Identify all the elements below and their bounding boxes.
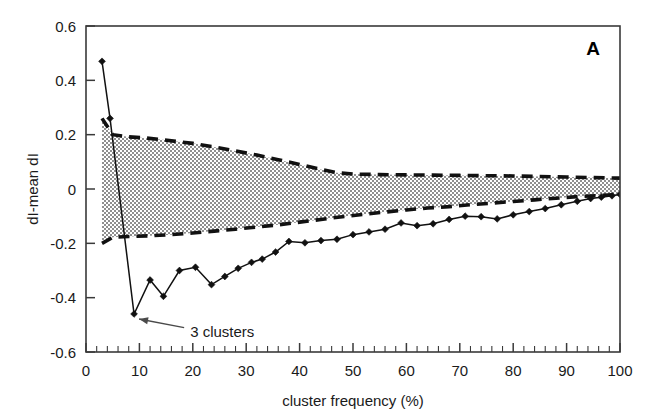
data-point-marker — [542, 205, 549, 212]
y-axis-tick-label: 0.2 — [55, 126, 76, 143]
y-axis-tick-label: 0.4 — [55, 72, 76, 89]
y-axis-title: dI-mean dI — [24, 153, 41, 225]
data-point-marker — [526, 208, 533, 215]
annotation-arrow-head — [139, 317, 149, 324]
confidence-band-area — [102, 118, 620, 243]
figure-panel-a: 0102030405060708090100 -0.6-0.4-0.200.20… — [0, 0, 654, 416]
x-axis-tick-label: 40 — [291, 362, 308, 379]
y-axis-tick-label: 0.6 — [55, 18, 76, 35]
x-axis-tick-label: 60 — [398, 362, 415, 379]
data-point-marker — [574, 198, 581, 205]
data-point-marker — [99, 58, 106, 65]
data-point-marker — [302, 239, 309, 246]
x-axis-tick-label: 50 — [345, 362, 362, 379]
panel-label: A — [586, 38, 600, 59]
x-axis-tick-label: 20 — [184, 362, 201, 379]
x-axis-tick-label: 0 — [82, 362, 90, 379]
y-axis-tick-label: 0 — [68, 181, 76, 198]
x-axis-title: cluster frequency (%) — [282, 392, 424, 409]
data-point-marker — [334, 236, 341, 243]
x-axis-tick-label: 100 — [607, 362, 632, 379]
x-axis-tick-labels: 0102030405060708090100 — [82, 362, 633, 379]
data-point-marker — [462, 213, 469, 220]
x-axis-ticks — [86, 343, 620, 352]
data-point-marker — [478, 213, 485, 220]
x-axis-tick-label: 70 — [451, 362, 468, 379]
annotation-group: 3 clusters — [139, 317, 254, 339]
y-axis-tick-labels: -0.6-0.4-0.200.20.40.6 — [50, 18, 76, 361]
data-point-marker — [494, 215, 501, 222]
data-point-marker — [366, 229, 373, 236]
data-point-marker — [446, 216, 453, 223]
x-axis-tick-label: 90 — [558, 362, 575, 379]
x-axis-tick-label: 30 — [238, 362, 255, 379]
x-axis-tick-label: 80 — [505, 362, 522, 379]
data-point-marker — [221, 273, 228, 280]
data-point-marker — [382, 226, 389, 233]
data-point-marker — [318, 237, 325, 244]
data-point-marker — [350, 231, 357, 238]
chart-canvas: 0102030405060708090100 -0.6-0.4-0.200.20… — [0, 0, 654, 416]
data-point-marker — [248, 259, 255, 266]
data-point-marker — [398, 220, 405, 227]
data-point-marker — [414, 222, 421, 229]
x-axis-tick-label: 10 — [131, 362, 148, 379]
data-point-marker — [131, 311, 138, 318]
y-axis-tick-label: -0.2 — [50, 235, 76, 252]
y-axis-ticks — [86, 26, 95, 352]
data-point-marker — [176, 267, 183, 274]
data-point-marker — [558, 201, 565, 208]
data-point-marker — [430, 220, 437, 227]
y-axis-tick-label: -0.4 — [50, 289, 76, 306]
data-point-marker — [107, 115, 114, 122]
data-point-marker — [235, 265, 242, 272]
data-point-marker — [510, 211, 517, 218]
confidence-band — [102, 118, 620, 243]
y-axis-tick-label: -0.6 — [50, 344, 76, 361]
annotation-label: 3 clusters — [190, 323, 254, 340]
data-point-marker — [259, 256, 266, 263]
